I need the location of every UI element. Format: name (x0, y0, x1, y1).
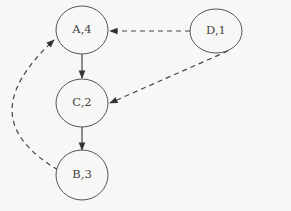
node-a-label: A,4 (71, 22, 91, 36)
node-d: D,1 (190, 9, 242, 53)
node-c-label: C,2 (72, 95, 91, 109)
edge-b-to-a (12, 40, 58, 170)
node-b: B,3 (56, 150, 108, 200)
graph-canvas: A,4 C,2 B,3 D,1 (0, 0, 291, 211)
edge-d-to-c (110, 51, 228, 103)
node-a: A,4 (56, 6, 108, 54)
node-b-label: B,3 (72, 167, 91, 181)
node-d-label: D,1 (206, 23, 226, 37)
node-c: C,2 (56, 79, 108, 127)
